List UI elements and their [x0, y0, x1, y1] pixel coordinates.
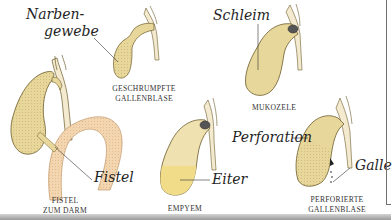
empyem-illustration: [160, 98, 217, 195]
label-narben: Narben-: [26, 7, 84, 22]
label-perforation: Perforation: [232, 130, 312, 145]
caption-geschrumpfte: GESCHRUMPFTE GALLENBLASE: [98, 84, 190, 104]
label-schleim: Schleim: [213, 8, 270, 23]
frame-border-corner: [386, 204, 391, 205]
geschrumpfte-illustration: [94, 6, 159, 78]
caption-fistel-line1: FISTEL: [30, 196, 100, 206]
caption-geschrumpfte-line2: GALLENBLASE: [98, 94, 190, 104]
caption-perforierte: PERFORIERTE GALLENBLASE: [292, 195, 382, 215]
bottom-shadow-bar: [0, 214, 391, 220]
caption-perforierte-line1: PERFORIERTE: [292, 195, 382, 205]
label-eiter: Eiter: [212, 172, 247, 187]
caption-empyem: EMPYEM: [150, 204, 220, 214]
label-fistel: Fistel: [94, 170, 134, 185]
caption-mukozele: MUKOZELE: [244, 103, 304, 113]
caption-geschrumpfte-line1: GESCHRUMPFTE: [98, 84, 190, 94]
frame-border-right: [386, 0, 387, 205]
label-gewebe: gewebe: [44, 24, 99, 39]
caption-fistel: FISTEL ZUM DARM: [30, 196, 100, 216]
